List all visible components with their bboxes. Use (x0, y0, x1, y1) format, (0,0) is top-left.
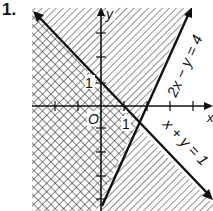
inequality-graph: 1 y O 1 x 2x − y = 4 x + y = 1 (0, 0, 213, 211)
x-axis-label: x (206, 110, 213, 125)
x-one-label: 1 (122, 116, 130, 132)
y-one-label: 1 (85, 75, 93, 91)
origin-label: O (88, 111, 99, 127)
y-axis-label: y (105, 6, 114, 22)
